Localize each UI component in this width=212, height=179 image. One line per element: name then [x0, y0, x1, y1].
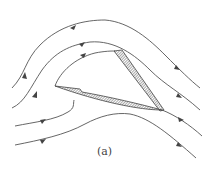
arrow-icon: [79, 42, 85, 47]
arrow-icon: [176, 93, 182, 98]
streamline-body-upper: [55, 51, 115, 86]
streamline-figure: (a): [0, 0, 212, 179]
arrow-icon: [174, 65, 180, 70]
figure-caption: (a): [97, 145, 112, 158]
streamline-outer-top: [12, 20, 200, 88]
arrow-icon: [32, 91, 37, 98]
streamline-separating: [15, 100, 74, 126]
arrow-icon: [80, 53, 86, 58]
arrow-icon: [40, 119, 46, 124]
streamline-wake: [162, 110, 202, 136]
